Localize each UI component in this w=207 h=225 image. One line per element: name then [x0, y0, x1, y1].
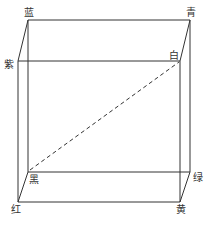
edge-blue-purple	[18, 20, 28, 61]
label-yellow: 黄	[176, 203, 186, 215]
gray-diagonal-line	[30, 62, 179, 170]
rgb-cube-diagram: 蓝 青 紫 白 黑 绿 红 黄	[0, 0, 207, 225]
back-face	[28, 20, 190, 172]
label-green: 绿	[193, 171, 203, 183]
label-purple: 紫	[4, 59, 14, 70]
edge-cyan-white	[180, 20, 190, 61]
label-red: 红	[11, 203, 21, 215]
front-face	[18, 61, 180, 202]
edge-black-red	[18, 172, 28, 202]
edge-green-yellow	[180, 172, 190, 202]
label-white: 白	[169, 49, 179, 61]
label-black: 黑	[29, 174, 39, 185]
label-cyan: 青	[186, 6, 196, 18]
label-blue: 蓝	[24, 7, 34, 18]
depth-edges	[18, 20, 190, 202]
